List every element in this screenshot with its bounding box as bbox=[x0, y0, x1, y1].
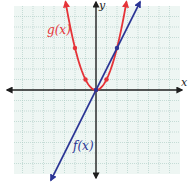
f-point bbox=[115, 46, 119, 50]
coordinate-graph: x y g(x) f(x) bbox=[0, 0, 189, 182]
f-label: f(x) bbox=[72, 139, 94, 153]
f-point bbox=[94, 88, 98, 92]
g-point bbox=[104, 77, 108, 81]
g-point bbox=[73, 46, 77, 50]
g-label: g(x) bbox=[47, 23, 71, 37]
y-axis-label: y bbox=[98, 0, 106, 12]
x-axis-label: x bbox=[181, 76, 188, 89]
g-point bbox=[83, 77, 87, 81]
